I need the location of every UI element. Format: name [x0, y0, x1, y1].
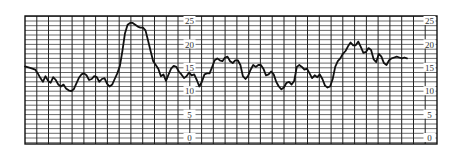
y-tick-label: 5	[187, 110, 192, 120]
y-tick-label: 15	[185, 63, 195, 73]
trace-line	[25, 23, 407, 91]
y-tick-label: 10	[425, 86, 435, 96]
y-tick-label: 10	[185, 86, 195, 96]
y-tick-label: 20	[185, 40, 195, 50]
y-tick-label: 25	[425, 16, 435, 26]
strip-chart: 05101520250510152025	[0, 0, 461, 158]
y-tick-label: 25	[185, 16, 195, 26]
y-tick-label: 15	[425, 63, 435, 73]
y-tick-label: 0	[187, 133, 192, 143]
y-tick-label: 5	[427, 110, 432, 120]
y-tick-label: 20	[425, 40, 435, 50]
horizontal-gridlines	[25, 16, 437, 142]
y-tick-label: 0	[427, 133, 432, 143]
